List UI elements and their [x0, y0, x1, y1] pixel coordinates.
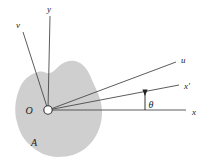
origin-label: O	[25, 105, 32, 116]
region-a-label: A	[30, 137, 38, 148]
u-axis-label: u	[181, 55, 186, 65]
x-prime-axis-label: x'	[183, 81, 191, 91]
angle-indicator-arrowhead	[142, 90, 147, 97]
y-axis-label: y	[46, 4, 51, 14]
theta-angle-label: θ	[149, 99, 154, 110]
coordinate-axes-diagram: y v u x' x O A θ	[0, 0, 209, 168]
origin-marker	[44, 106, 52, 114]
figure-container: y v u x' x O A θ	[0, 0, 209, 168]
x-axis-label: x	[191, 107, 196, 117]
v-axis-label: v	[16, 20, 20, 30]
